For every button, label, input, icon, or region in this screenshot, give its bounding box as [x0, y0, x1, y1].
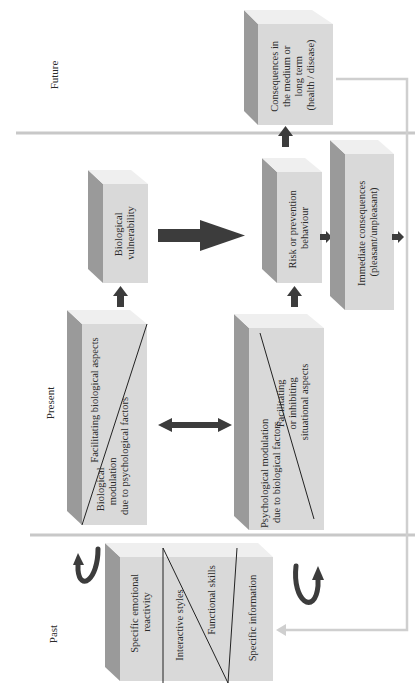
- box-biovuln-line: Biological: [113, 212, 124, 256]
- arrow-biobox-to-biovuln: [113, 286, 128, 307]
- box-consequences-line: (health / disease): [305, 39, 317, 111]
- svg-text:Biological vulnerability: Biological vulnerability: [113, 205, 136, 259]
- arrow-psychbox-to-risk: [287, 286, 302, 307]
- era-label-future: Future: [48, 61, 60, 90]
- era-label-past: Past: [47, 625, 59, 643]
- era-label-present: Present: [44, 387, 56, 419]
- svg-text:Functional skills: Functional skills: [206, 565, 217, 635]
- feedback-arrowhead-icon: [276, 624, 286, 636]
- box-past-section-line: reactivity: [141, 591, 152, 631]
- box-bioaspects-lower-line: Biological: [95, 467, 106, 511]
- curved-arrow-right-icon: [296, 566, 324, 602]
- box-immediate-line: (pleasant/unpleasant): [368, 187, 380, 277]
- box-consequences-long-term: Consequences in the medium or long term …: [244, 10, 333, 125]
- diagram-canvas: Future Present Past Consequences in the …: [0, 0, 420, 693]
- box-psych-lower-line: Psychological modulation: [259, 418, 270, 528]
- box-past-section-line: Interactive styles: [174, 589, 185, 660]
- svg-text:Specific information: Specific information: [247, 574, 258, 661]
- box-risk-line: behaviour: [299, 207, 310, 249]
- box-psych-upper-line: or inhibiting: [287, 376, 298, 429]
- box-biovuln-line: vulnerability: [125, 205, 136, 259]
- box-consequences-line: long term: [293, 56, 304, 97]
- box-past-dispositions: Specific emotional reactivity Interactiv…: [105, 543, 273, 683]
- box-psych-upper-line: situational aspects: [299, 364, 310, 441]
- curved-arrow-left-icon: [73, 549, 98, 581]
- box-biological-aspects: Facilitating biological aspects Biologic…: [67, 310, 147, 525]
- box-immediate-consequences: Immediate consequences (pleasant/unpleas…: [330, 140, 394, 310]
- arrow-risk-to-consequences: [278, 126, 293, 147]
- box-past-section-line: Specific emotional: [129, 574, 140, 653]
- box-immediate-line: Immediate consequences: [356, 181, 367, 286]
- svg-text:Psychological modulation: Psychological modulation due to biologic…: [259, 416, 282, 528]
- arrow-biovuln-to-risk: [158, 220, 245, 251]
- box-past-section-line: Specific information: [247, 574, 258, 661]
- box-bioaspects-lower-line: due to psychological factors: [119, 397, 130, 515]
- box-bioaspects-upper: Facilitating biological aspects: [89, 337, 100, 462]
- box-psych-upper-line: Facilitating: [275, 379, 286, 428]
- box-risk-line: Risk or prevention: [287, 189, 298, 268]
- arrow-bidirectional-bio-psych: [158, 418, 232, 432]
- box-consequences-line: Consequences in: [269, 40, 280, 112]
- box-past-section-line: Functional skills: [206, 565, 217, 635]
- box-bioaspects-lower-line: modulation: [107, 457, 118, 506]
- svg-text:Immediate consequences (: Immediate consequences (pleasant/unpleas…: [356, 178, 380, 286]
- box-consequences-line: the medium or: [281, 45, 292, 107]
- box-biological-vulnerability: Biological vulnerability: [88, 170, 148, 283]
- svg-text:Facilitating biological aspect: Facilitating biological aspects: [89, 337, 100, 462]
- box-psychological-aspects: Facilitating or inhibiting situational a…: [234, 314, 324, 530]
- svg-text:Interactive styles: Interactive styles: [174, 589, 185, 660]
- box-psych-lower-line: due to biological factors: [271, 421, 282, 523]
- box-risk-prevention: Risk or prevention behaviour: [262, 158, 322, 283]
